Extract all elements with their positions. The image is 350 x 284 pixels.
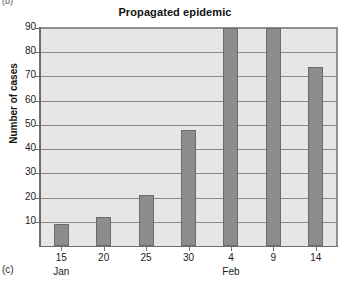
y-tick-mark [35,173,40,174]
y-tick-label: 10 [6,215,36,226]
y-tick-label: 60 [6,94,36,105]
y-tick-mark [35,76,40,77]
panel-letter-bottom: (c) [2,264,14,275]
y-tick-label: 30 [6,166,36,177]
y-tick-mark [35,101,40,102]
y-tick-mark-right [332,173,337,174]
y-tick-mark-right [332,125,337,126]
x-month-label: Feb [211,266,251,277]
gridline [40,125,337,126]
x-tick-mark [104,246,105,251]
bar [308,67,323,246]
bar [54,224,69,246]
gridline [40,76,337,77]
x-tick-label: 9 [253,252,293,263]
y-tick-mark [35,198,40,199]
y-tick-label: 50 [6,118,36,129]
bar [139,195,154,246]
x-tick-label: 4 [211,252,251,263]
y-tick-mark-right [332,76,337,77]
chart-title: Propagated epidemic [0,6,350,18]
y-tick-mark [35,28,40,29]
gridline [40,52,337,53]
y-tick-mark-right [332,198,337,199]
x-tick-label: 15 [41,252,81,263]
gridline [40,101,337,102]
axis-top-spine [39,27,338,29]
y-tick-mark-right [332,28,337,29]
y-tick-mark [35,149,40,150]
x-tick-mark [189,246,190,251]
x-tick-label: 14 [296,252,336,263]
axis-left-spine [39,27,41,247]
y-tick-mark-right [332,149,337,150]
x-tick-mark [273,246,274,251]
y-tick-label: 80 [6,45,36,56]
x-tick-label: 20 [84,252,124,263]
y-tick-label: 70 [6,69,36,80]
x-tick-label: 25 [126,252,166,263]
x-tick-mark [61,246,62,251]
axis-right-spine [336,27,338,247]
bar [223,28,238,246]
y-tick-mark-right [332,101,337,102]
y-tick-mark-right [332,222,337,223]
x-month-label: Jan [41,266,81,277]
y-tick-label: 90 [6,21,36,32]
bar [181,130,196,246]
bar [266,28,281,246]
y-tick-label: 20 [6,191,36,202]
x-tick-mark [316,246,317,251]
x-tick-mark [231,246,232,251]
y-tick-mark-right [332,52,337,53]
x-tick-mark [146,246,147,251]
x-tick-label: 30 [169,252,209,263]
bar [96,217,111,246]
y-tick-mark [35,125,40,126]
y-tick-label: 40 [6,142,36,153]
y-tick-mark [35,52,40,53]
y-tick-mark [35,222,40,223]
